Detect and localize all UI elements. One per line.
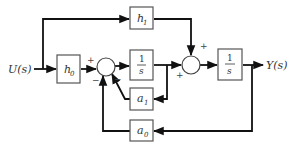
block-h1: h 1 — [130, 7, 153, 29]
svg-text:a: a — [137, 92, 144, 105]
svg-text:s: s — [227, 66, 232, 76]
sum1-sign-bottom-left: − — [92, 75, 100, 85]
svg-text:1: 1 — [139, 54, 145, 64]
output-label: Y(s) — [266, 59, 288, 72]
wire-feedback-to-a1 — [154, 65, 167, 99]
block-a0: a 0 — [130, 120, 153, 141]
svg-text:1: 1 — [144, 99, 148, 107]
block-integrator-2: 1 s — [218, 49, 242, 80]
svg-text:a: a — [137, 124, 144, 137]
wire-h1-to-sum2 — [154, 19, 191, 55]
sum2-sign-top: + — [200, 41, 208, 51]
svg-text:1: 1 — [143, 19, 147, 27]
wire-input-to-h1 — [43, 19, 129, 69]
svg-text:1: 1 — [227, 53, 233, 63]
sum2-sign-left: + — [176, 70, 184, 80]
svg-text:s: s — [139, 66, 144, 76]
svg-text:0: 0 — [144, 131, 149, 139]
block-integrator-1: 1 s — [130, 50, 153, 80]
summing-junction-1: + − − — [87, 55, 122, 85]
block-h0: h 0 — [57, 55, 80, 83]
sum1-sign-top: + — [87, 55, 95, 65]
input-label: U(s) — [8, 63, 32, 76]
block-a1: a 1 — [130, 88, 153, 110]
sum1-sign-bottom-right: − — [114, 74, 122, 84]
block-diagram: U(s) Y(s) h 0 h 1 1 s 1 s a 1 a 0 — [0, 0, 295, 152]
svg-text:0: 0 — [70, 70, 75, 78]
